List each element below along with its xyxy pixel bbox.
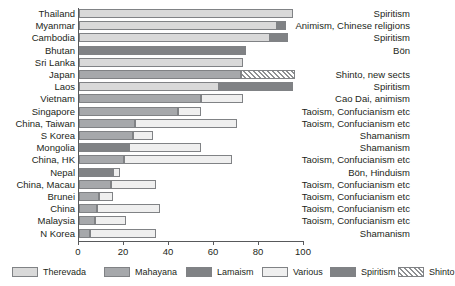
legend-item-lamaism[interactable]: Lamaism (186, 267, 254, 277)
category-label: Japan (49, 69, 75, 80)
category-label: Bhutan (45, 45, 75, 56)
category-label: China, Taiwan (15, 118, 75, 129)
legend-swatch-mahayana (104, 267, 130, 277)
row-annotation: Taoism, Confucianism etc (302, 154, 410, 165)
row-annotation: Shamanism (360, 228, 410, 239)
legend-label: Shinto (429, 267, 455, 277)
row-annotation: Bön, Hinduism (348, 167, 410, 178)
legend-item-spiritism[interactable]: Spiritism (330, 267, 396, 277)
bar-segment-various (133, 131, 153, 140)
bar-segment-various (201, 94, 244, 103)
bar-segment-spiritism (219, 82, 293, 91)
bar-segment-mahayana (79, 119, 135, 128)
chart-row: JapanShinto, new sects (0, 69, 414, 80)
category-label: China, HK (32, 154, 75, 165)
row-annotation: Bön (393, 45, 410, 56)
bar-segment-various (90, 229, 155, 238)
chart-row: BruneiTaoism, Confucianism etc (0, 191, 414, 202)
chart-row: MalaysiaTaoism, Confucianism etc (0, 215, 414, 226)
chart-legend: TherevadaMahayanaLamaismVariousSpiritism… (0, 262, 414, 282)
row-annotation: Taoism, Confucianism etc (302, 179, 410, 190)
row-annotation: Animism, Chinese religions (295, 20, 410, 31)
bar-segment-therevada (79, 21, 277, 30)
bar-segment-lamaism (79, 143, 129, 152)
row-annotation: Spiritism (374, 32, 410, 43)
chart-row: N KoreaShamanism (0, 228, 414, 239)
bar-segment-various (135, 119, 236, 128)
row-annotation: Taoism, Confucianism etc (302, 215, 410, 226)
category-label: Mongolia (36, 142, 75, 153)
legend-item-various[interactable]: Various (262, 267, 323, 277)
category-label: Brunei (48, 191, 75, 202)
row-annotation: Shamanism (360, 130, 410, 141)
x-axis-tick-label: 100 (295, 246, 311, 257)
x-axis-tick (78, 241, 79, 245)
category-label: Vietnam (40, 93, 75, 104)
chart-row: S KoreaShamanism (0, 130, 414, 141)
bar-segment-various (113, 168, 120, 177)
chart-row: Sri Lanka (0, 57, 414, 68)
bar-segment-shinto (241, 70, 295, 79)
legend-swatch-therevada (12, 267, 38, 277)
chart-row: MyanmarAnimism, Chinese religions (0, 20, 414, 31)
bar-segment-mahayana (79, 229, 90, 238)
category-label: Laos (54, 81, 75, 92)
row-annotation: Spiritism (374, 8, 410, 19)
chart-row: ChinaTaoism, Confucianism etc (0, 203, 414, 214)
legend-label: Therevada (43, 267, 86, 277)
legend-swatch-various (262, 267, 288, 277)
bar-segment-lamaism (79, 168, 113, 177)
row-annotation: Taoism, Confucianism etc (302, 203, 410, 214)
chart-row: China, MacauTaoism, Confucianism etc (0, 179, 414, 190)
category-label: China (50, 203, 75, 214)
bar-segment-lamaism (79, 46, 246, 55)
bar-segment-mahayana (79, 204, 97, 213)
row-annotation: Shamanism (360, 142, 410, 153)
bar-segment-various (124, 155, 232, 164)
x-axis-tick-label: 40 (163, 246, 174, 257)
legend-swatch-shinto (398, 267, 424, 277)
legend-item-therevada[interactable]: Therevada (12, 267, 86, 277)
chart-row: CambodiaSpiritism (0, 32, 414, 43)
row-annotation: Cao Dai, animism (335, 93, 410, 104)
bar-segment-mahayana (79, 155, 124, 164)
bar-segment-various (178, 107, 201, 116)
legend-label: Various (293, 267, 323, 277)
row-annotation: Taoism, Confucianism etc (302, 118, 410, 129)
category-label: Myanmar (35, 20, 75, 31)
category-label: N Korea (40, 228, 75, 239)
bar-segment-various (129, 143, 201, 152)
x-axis-tick (213, 241, 214, 245)
bar-segment-various (111, 180, 156, 189)
x-axis-line (78, 241, 304, 242)
legend-swatch-lamaism (186, 267, 212, 277)
chart-row: China, HKTaoism, Confucianism etc (0, 154, 414, 165)
bar-segment-therevada (79, 9, 293, 18)
chart-row: MongoliaShamanism (0, 142, 414, 153)
legend-item-mahayana[interactable]: Mahayana (104, 267, 177, 277)
bar-segment-mahayana (79, 70, 241, 79)
legend-label: Mahayana (135, 267, 177, 277)
bar-segment-mahayana (79, 131, 133, 140)
bar-segment-mahayana (79, 107, 178, 116)
x-axis-tick (303, 241, 304, 245)
x-axis-tick-label: 60 (208, 246, 219, 257)
row-annotation: Shinto, new sects (336, 69, 410, 80)
bar-segment-therevada (79, 58, 243, 67)
bar-segment-therevada (79, 33, 270, 42)
legend-label: Lamaism (217, 267, 254, 277)
category-label: Malaysia (38, 215, 76, 226)
chart-row: BhutanBön (0, 45, 414, 56)
bar-segment-mahayana (79, 192, 99, 201)
category-label: China, Macau (16, 179, 75, 190)
category-label: Nepal (50, 167, 75, 178)
category-label: S Korea (41, 130, 75, 141)
category-label: Cambodia (32, 32, 75, 43)
x-axis-tick-label: 0 (75, 246, 80, 257)
x-axis-tick (258, 241, 259, 245)
row-annotation: Taoism, Confucianism etc (302, 106, 410, 117)
bar-segment-various (97, 204, 160, 213)
row-annotation: Spiritism (374, 81, 410, 92)
legend-item-shinto[interactable]: Shinto (398, 267, 455, 277)
